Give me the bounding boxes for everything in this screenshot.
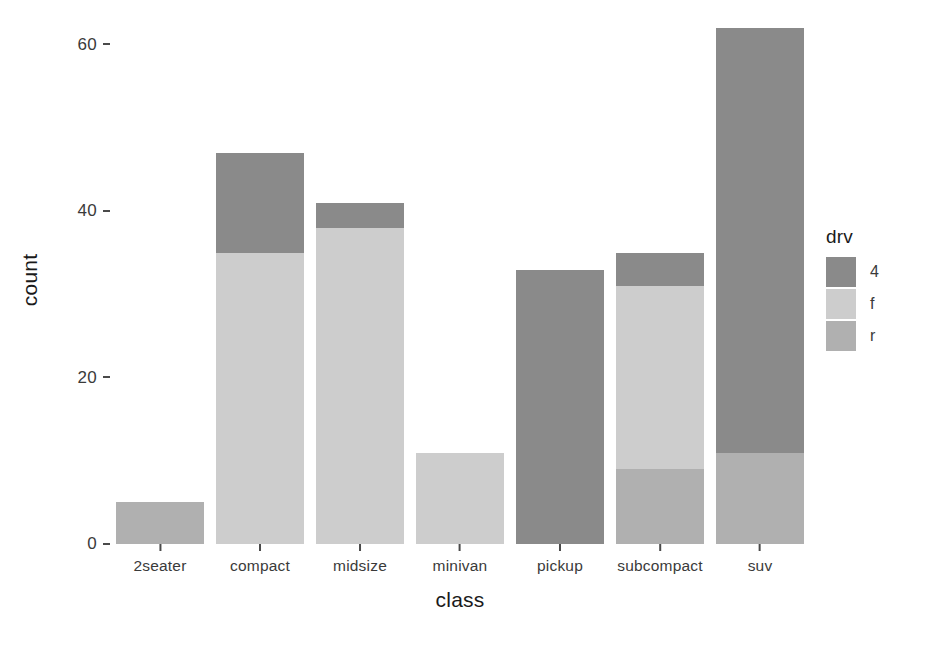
x-axis-tick: subcompact [617,544,703,575]
y-axis-tick: 60 [77,35,110,55]
x-axis-tick: 2seater [133,544,186,575]
x-axis-tick-mark [759,544,761,551]
bar-segment[interactable] [316,203,405,228]
x-axis-tick-label: minivan [433,557,488,575]
plot-area [110,20,810,544]
x-axis-tick-mark [659,544,661,551]
y-axis-tick: 40 [77,201,110,221]
x-axis-tick-label: 2seater [133,557,186,575]
bar-segment[interactable] [516,270,605,544]
x-axis-tick: compact [230,544,290,575]
x-axis-tick: pickup [537,544,583,575]
x-axis-tick-label: pickup [537,557,583,575]
x-axis-title-label: class [436,588,485,611]
bar-segment[interactable] [616,469,705,544]
y-axis-tick-mark [103,43,110,45]
legend-label: f [870,295,874,313]
bar-group[interactable] [216,20,305,544]
x-axis-tick-mark [259,544,261,551]
bar-group[interactable] [416,20,505,544]
x-axis-ticks: 2seatercompactmidsizeminivanpickupsubcom… [110,544,810,584]
legend-label: 4 [870,263,879,281]
x-axis-tick-label: midsize [333,557,387,575]
y-axis-tick-label: 40 [77,201,97,221]
y-axis-title-label: count [18,254,42,306]
x-axis-tick-mark [459,544,461,551]
x-axis-tick-mark [559,544,561,551]
bar-group[interactable] [116,20,205,544]
legend-items: 4fr [826,257,922,351]
x-axis-tick-mark [159,544,161,551]
x-axis-tick-mark [359,544,361,551]
bar-group[interactable] [316,20,405,544]
bar-segment[interactable] [216,153,305,253]
legend-item[interactable]: f [826,289,922,319]
x-axis-tick-label: subcompact [617,557,703,575]
bar-segment[interactable] [216,253,305,544]
legend-title: drv [826,226,922,248]
legend-item[interactable]: r [826,321,922,351]
legend-swatch [826,257,856,287]
bar-segment[interactable] [716,453,805,544]
y-axis-tick: 20 [77,368,110,388]
bar-group[interactable] [616,20,705,544]
x-axis-tick-label: suv [748,557,773,575]
x-axis-tick-label: compact [230,557,290,575]
legend-swatch [826,289,856,319]
y-axis-tick-mark [103,210,110,212]
bar-segment[interactable] [716,28,805,452]
bar-segment[interactable] [316,228,405,544]
bar-segment[interactable] [116,502,205,544]
y-axis-tick-label: 20 [77,368,97,388]
legend-swatch [826,321,856,351]
bar-segment[interactable] [416,453,505,544]
bar-segment[interactable] [616,253,705,286]
y-axis-tick-mark [103,376,110,378]
bar-group[interactable] [516,20,605,544]
x-axis-tick: minivan [433,544,488,575]
x-axis-tick: suv [748,544,773,575]
y-axis-ticks: 0204060 [40,0,110,651]
legend: drv 4fr [826,226,922,353]
legend-label: r [870,327,875,345]
y-axis-tick: 0 [87,534,110,554]
y-axis-tick-mark [103,543,110,545]
bar-segment[interactable] [616,286,705,469]
bar-group[interactable] [716,20,805,544]
y-axis-tick-label: 60 [77,35,97,55]
bar-chart: count 0204060 2seatercompactmidsizeminiv… [0,0,930,651]
legend-item[interactable]: 4 [826,257,922,287]
x-axis-tick: midsize [333,544,387,575]
x-axis-title: class [110,588,810,612]
y-axis-tick-label: 0 [87,534,97,554]
